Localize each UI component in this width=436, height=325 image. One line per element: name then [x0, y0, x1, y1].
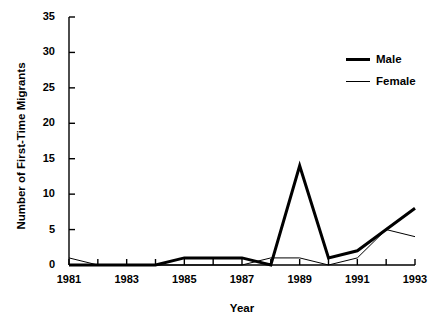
- y-tick-label: 0: [27, 259, 55, 270]
- y-axis-title: Number of First-Time Migrants: [15, 41, 27, 251]
- y-tick-label: 30: [27, 46, 55, 57]
- x-tick-label: 1991: [335, 274, 379, 285]
- x-tick-label: 1983: [105, 274, 149, 285]
- legend-line-female-icon: [346, 81, 370, 82]
- legend-label-male: Male: [376, 54, 402, 66]
- legend-line-male-icon: [346, 58, 370, 61]
- y-tick-marks: [69, 17, 75, 265]
- legend-item-female: Female: [346, 76, 416, 88]
- y-tick-label: 10: [27, 188, 55, 199]
- y-tick-label: 25: [27, 82, 55, 93]
- x-tick-label: 1989: [278, 274, 322, 285]
- legend-item-male: Male: [346, 54, 402, 66]
- line-chart-figure: 35302520151050 1981198319851987198919911…: [0, 0, 436, 325]
- series-line-male: [69, 166, 415, 265]
- y-tick-label: 35: [27, 11, 55, 22]
- x-tick-label: 1985: [162, 274, 206, 285]
- x-tick-label: 1993: [393, 274, 436, 285]
- y-tick-label: 15: [27, 153, 55, 164]
- x-tick-label: 1987: [220, 274, 264, 285]
- series-lines: [69, 166, 415, 265]
- x-axis-title: Year: [69, 302, 415, 314]
- x-tick-label: 1981: [47, 274, 91, 285]
- legend-label-female: Female: [376, 76, 416, 88]
- y-tick-label: 20: [27, 117, 55, 128]
- y-tick-label: 5: [27, 224, 55, 235]
